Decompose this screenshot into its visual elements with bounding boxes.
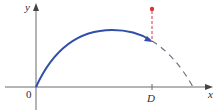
- dashed-trajectory-continuation: [152, 41, 193, 87]
- y-axis-arrow-icon: [33, 3, 39, 11]
- trajectory-curve: [36, 30, 150, 87]
- axes: [5, 3, 213, 110]
- red-point-icon: [150, 7, 154, 11]
- trajectory-diagram: y x 0 D: [0, 0, 224, 112]
- origin-label: 0: [26, 88, 32, 100]
- y-axis-label: y: [24, 1, 30, 13]
- d-label: D: [146, 92, 155, 104]
- x-axis-label: x: [207, 88, 213, 100]
